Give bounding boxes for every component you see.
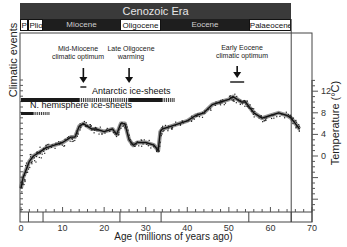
data-point <box>144 139 145 140</box>
data-point <box>253 108 254 109</box>
data-point <box>237 99 238 100</box>
data-point <box>242 103 243 104</box>
data-point <box>247 106 248 107</box>
data-point <box>251 111 252 112</box>
data-point <box>116 133 117 134</box>
data-point <box>236 96 237 97</box>
data-point <box>294 121 295 122</box>
data-point <box>225 100 226 101</box>
data-point <box>175 125 176 126</box>
x-tick-label: 30 <box>141 223 151 233</box>
data-point <box>82 123 83 124</box>
data-point <box>129 135 130 136</box>
data-point <box>208 109 209 110</box>
data-point <box>191 116 192 117</box>
ice-bar-partial <box>39 112 40 115</box>
data-point <box>158 150 159 151</box>
data-point <box>22 183 23 184</box>
ice-bar-partial <box>48 112 49 115</box>
data-point <box>171 129 172 130</box>
data-point <box>249 108 250 109</box>
data-point <box>288 114 289 115</box>
data-point <box>148 145 149 146</box>
data-point <box>67 137 68 138</box>
data-point <box>292 118 293 119</box>
y-tick-label-right: 8 <box>321 108 326 118</box>
data-point <box>73 140 74 141</box>
data-point <box>260 116 261 117</box>
data-point <box>24 180 25 181</box>
data-point <box>165 125 166 126</box>
ice-bar-partial <box>111 98 112 102</box>
data-point <box>175 122 176 123</box>
data-point <box>130 142 131 143</box>
data-point <box>112 129 113 130</box>
data-point <box>172 127 173 128</box>
data-point <box>90 126 91 127</box>
data-point <box>130 141 131 142</box>
data-point <box>254 111 255 112</box>
x-tick-label: 20 <box>99 223 109 233</box>
data-point <box>295 120 296 121</box>
data-point <box>162 126 163 127</box>
ice-bar-partial <box>92 98 93 102</box>
data-point <box>194 119 195 120</box>
x-tick-label: 10 <box>58 223 68 233</box>
data-point <box>95 127 96 128</box>
data-point <box>264 118 265 119</box>
data-point <box>202 112 203 113</box>
data-point <box>149 140 150 141</box>
data-point <box>96 130 97 131</box>
data-point <box>59 144 60 145</box>
data-point <box>46 149 47 150</box>
data-point <box>186 120 187 121</box>
data-point <box>86 122 87 123</box>
ice-bar-partial <box>104 98 105 102</box>
ice-bar-partial <box>122 98 123 102</box>
x-tick-label: 70 <box>307 223 317 233</box>
data-point <box>236 102 237 103</box>
data-point <box>128 137 129 138</box>
data-point <box>91 129 92 130</box>
data-point <box>55 143 56 144</box>
data-point <box>188 120 189 121</box>
data-point <box>96 129 97 130</box>
data-point <box>231 98 232 99</box>
ice-bar-partial <box>107 98 108 102</box>
data-point <box>299 126 300 127</box>
data-point <box>196 116 197 117</box>
data-point <box>70 141 71 142</box>
ice-bar-partial <box>174 98 175 102</box>
data-point <box>299 130 300 131</box>
data-point <box>77 133 78 134</box>
data-point <box>64 139 65 140</box>
data-point <box>156 151 157 152</box>
data-point <box>258 117 259 118</box>
data-point <box>116 136 117 137</box>
data-point <box>160 133 161 134</box>
data-point <box>87 125 88 126</box>
ice-bar-partial <box>164 98 165 102</box>
data-point <box>159 141 160 142</box>
chart-canvas: 01020304050607004812 <box>0 0 347 247</box>
data-point <box>106 129 107 130</box>
data-point <box>292 123 293 124</box>
data-point <box>192 118 193 119</box>
data-point <box>27 167 28 168</box>
data-point <box>167 130 168 131</box>
data-point <box>160 130 161 131</box>
data-point <box>114 131 115 132</box>
data-point <box>153 146 154 147</box>
data-point <box>163 130 164 131</box>
data-point <box>122 126 123 127</box>
data-point <box>271 118 272 119</box>
data-point <box>24 175 25 176</box>
data-point <box>250 104 251 105</box>
data-point <box>43 148 44 149</box>
ice-bar-full <box>129 98 162 102</box>
ice-bar-full <box>21 98 79 102</box>
data-point <box>197 113 198 114</box>
data-point <box>204 113 205 114</box>
ice-bar-partial <box>94 98 95 102</box>
data-point <box>75 135 76 136</box>
